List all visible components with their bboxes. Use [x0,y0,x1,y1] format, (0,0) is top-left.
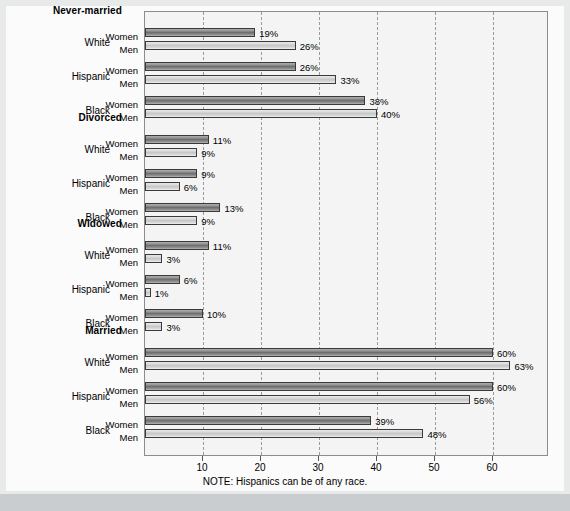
x-tick-label-10: 10 [187,462,217,473]
value-label-never-married-black-men: 40% [381,110,400,119]
group-heading-widowed: Widowed [0,218,122,229]
group-heading-never-married: Never-married [0,5,122,16]
bar-divorced-black-women [145,203,220,212]
series-label-women: Women [78,386,138,396]
series-label-men: Men [78,258,138,268]
x-tick-30 [318,456,319,461]
bar-widowed-white-women [145,241,209,250]
category-label-column: Never-marriedWhiteWomenMenHispanicWomenM… [0,5,138,451]
value-label-widowed-black-men: 3% [166,323,180,332]
page-canvas: Never-marriedWhiteWomenMenHispanicWomenM… [0,0,570,511]
bar-divorced-white-men [145,148,197,157]
value-label-married-white-women: 60% [497,349,516,358]
series-label-men: Men [78,45,138,55]
series-label-women: Women [78,173,138,183]
series-label-women: Women [78,207,138,217]
value-label-never-married-black-women: 38% [369,97,388,106]
bar-married-hispanic-men [145,395,470,404]
bar-divorced-black-men [145,216,197,225]
bar-widowed-black-men [145,322,162,331]
value-label-widowed-hispanic-men: 1% [155,289,169,298]
series-label-men: Men [78,399,138,409]
bar-married-black-men [145,429,423,438]
x-tick-label-40: 40 [361,462,391,473]
value-label-married-black-women: 39% [375,417,394,426]
x-tick-50 [434,456,435,461]
x-tick-60 [492,456,493,461]
series-label-women: Women [78,420,138,430]
series-label-men: Men [78,152,138,162]
plot-area: 19%26%26%33%38%40%11%9%9%6%13%9%11%3%6%1… [144,11,548,456]
x-tick-label-20: 20 [245,462,275,473]
bar-never-married-black-women [145,96,365,105]
series-label-women: Women [78,245,138,255]
footer-band [0,494,570,511]
value-label-married-hispanic-women: 60% [497,383,516,392]
series-label-men: Men [78,365,138,375]
bar-widowed-hispanic-women [145,275,180,284]
bar-divorced-hispanic-men [145,182,180,191]
chart-note: NOTE: Hispanics can be of any race. [0,476,570,487]
x-tick-label-50: 50 [419,462,449,473]
value-label-divorced-hispanic-women: 9% [201,170,215,179]
gridline-60 [493,12,494,455]
value-label-married-black-men: 48% [427,430,446,439]
bar-married-hispanic-women [145,382,493,391]
value-label-widowed-white-men: 3% [166,255,180,264]
value-label-divorced-white-women: 11% [213,136,231,145]
value-label-divorced-black-men: 9% [201,217,215,226]
series-label-women: Women [78,139,138,149]
bar-divorced-hispanic-women [145,169,197,178]
bar-never-married-white-women [145,28,255,37]
value-label-widowed-black-women: 10% [207,310,226,319]
series-label-women: Women [78,66,138,76]
series-label-men: Men [78,433,138,443]
group-heading-divorced: Divorced [0,112,122,123]
bar-never-married-black-men [145,109,377,118]
value-label-never-married-white-men: 26% [300,42,319,51]
x-tick-20 [260,456,261,461]
series-label-women: Women [78,279,138,289]
bar-widowed-black-women [145,309,203,318]
series-label-men: Men [78,79,138,89]
bar-widowed-hispanic-men [145,288,151,297]
bar-divorced-white-women [145,135,209,144]
bar-never-married-white-men [145,41,296,50]
value-label-never-married-hispanic-men: 33% [340,76,359,85]
bar-widowed-white-men [145,254,162,263]
value-label-widowed-white-women: 11% [213,242,231,251]
series-label-women: Women [78,352,138,362]
bar-married-black-women [145,416,371,425]
value-label-never-married-hispanic-women: 26% [300,63,319,72]
bar-married-white-men [145,361,510,370]
value-label-never-married-white-women: 19% [259,29,278,38]
value-label-married-white-men: 63% [514,362,533,371]
x-tick-label-30: 30 [303,462,333,473]
group-heading-married: Married [0,325,122,336]
series-label-women: Women [78,313,138,323]
series-label-women: Women [78,100,138,110]
value-label-married-hispanic-men: 56% [474,396,493,405]
x-tick-10 [202,456,203,461]
value-label-divorced-hispanic-men: 6% [184,183,198,192]
series-label-men: Men [78,186,138,196]
series-label-women: Women [78,32,138,42]
bar-never-married-hispanic-men [145,75,336,84]
x-tick-label-60: 60 [477,462,507,473]
x-tick-40 [376,456,377,461]
value-label-divorced-black-women: 13% [224,204,243,213]
value-label-divorced-white-men: 9% [201,149,215,158]
bar-never-married-hispanic-women [145,62,296,71]
bar-married-white-women [145,348,493,357]
series-label-men: Men [78,292,138,302]
value-label-widowed-hispanic-women: 6% [184,276,198,285]
x-axis: 102030405060 [144,456,548,478]
